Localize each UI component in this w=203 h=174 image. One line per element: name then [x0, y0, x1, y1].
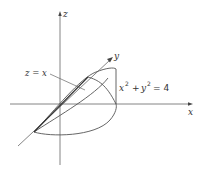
inner-curve — [34, 78, 108, 132]
svg-text:2: 2 — [147, 80, 151, 87]
plane-leader-line — [50, 74, 85, 90]
x-axis-arrow-icon — [188, 102, 193, 105]
svg-text:= 4: = 4 — [153, 83, 169, 93]
x-axis — [10, 102, 193, 105]
y-axis-label: y — [113, 51, 120, 61]
plane-equation-label: z = x — [24, 68, 47, 78]
svg-text:y: y — [140, 83, 147, 93]
cylinder-equation-label: x 2 + y 2 = 4 — [119, 80, 169, 93]
solid-region — [34, 68, 116, 135]
x-axis-label: x — [188, 107, 193, 117]
z-axis-arrow-icon — [58, 11, 61, 16]
z-axis — [58, 11, 61, 165]
cylinder-curve — [88, 77, 116, 104]
front-edge — [34, 77, 88, 132]
svg-text:2: 2 — [125, 80, 129, 87]
svg-text:+: + — [132, 83, 140, 93]
svg-text:x: x — [119, 83, 124, 93]
z-axis-label: z — [62, 9, 68, 19]
diagram-canvas: z y x z = x x 2 + y 2 = 4 — [0, 0, 203, 174]
